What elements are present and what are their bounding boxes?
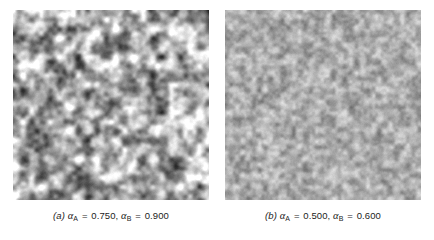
caption-b-alpha-b-value: 0.600	[357, 210, 381, 221]
caption-a-index: (a)	[53, 210, 65, 221]
panel-b: (b) αA = 0.500, αB = 0.600	[225, 0, 421, 240]
caption-b-alpha-a-value: 0.500	[303, 210, 327, 221]
noise-image-a	[13, 10, 209, 200]
noise-image-b	[225, 10, 421, 200]
caption-b-alpha-a-subscript: A	[285, 215, 290, 222]
caption-a-comma: ,	[116, 210, 119, 221]
caption-b-index: (b)	[265, 210, 277, 221]
panel-a: (a) αA = 0.750, αB = 0.900	[13, 0, 209, 240]
caption-a: (a) αA = 0.750, αB = 0.900	[13, 210, 209, 222]
caption-b-equals-1: =	[293, 210, 301, 221]
caption-b: (b) αA = 0.500, αB = 0.600	[225, 210, 421, 222]
figure-container: (a) αA = 0.750, αB = 0.900 (b) αA = 0.50…	[0, 0, 434, 240]
caption-a-alpha-b-subscript: B	[127, 215, 132, 222]
caption-a-alpha-b-value: 0.900	[145, 210, 169, 221]
caption-a-alpha-a-subscript: A	[73, 215, 78, 222]
caption-b-equals-2: =	[346, 210, 354, 221]
caption-b-comma: ,	[328, 210, 331, 221]
caption-a-equals-2: =	[134, 210, 142, 221]
caption-a-alpha-a-value: 0.750	[91, 210, 115, 221]
caption-b-alpha-b-subscript: B	[339, 215, 344, 222]
caption-a-equals-1: =	[81, 210, 89, 221]
